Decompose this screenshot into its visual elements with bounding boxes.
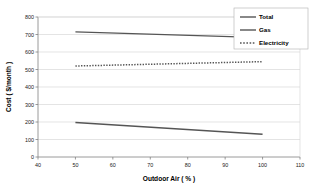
y-tick-label-700: 700	[25, 32, 34, 38]
x-tick-label-80: 80	[185, 162, 191, 168]
y-axis-title: Cost ( $/month )	[5, 62, 13, 112]
x-tick-label-70: 70	[147, 162, 153, 168]
chart-container: 0100200300400500600700800 40506070809010…	[0, 0, 316, 190]
x-axis-title: Outdoor Air ( % )	[143, 175, 196, 183]
y-tick-label-600: 600	[25, 49, 34, 55]
legend: TotalGasElectricity	[234, 8, 308, 49]
y-tick-label-400: 400	[25, 84, 34, 90]
y-tick-label-100: 100	[25, 137, 34, 143]
y-tick-label-500: 500	[25, 67, 34, 73]
legend-label-electricity: Electricity	[259, 39, 289, 46]
line-chart: 0100200300400500600700800 40506070809010…	[0, 0, 316, 190]
x-tick-label-90: 90	[222, 162, 228, 168]
legend-label-total: Total	[259, 13, 274, 20]
y-tick-label-0: 0	[31, 154, 34, 160]
y-tick-label-300: 300	[25, 102, 34, 108]
y-tick-label-200: 200	[25, 119, 34, 125]
x-tick-label-60: 60	[110, 162, 116, 168]
x-tick-label-50: 50	[72, 162, 78, 168]
x-tick-label-100: 100	[258, 162, 267, 168]
x-tick-label-40: 40	[35, 162, 41, 168]
y-tick-label-800: 800	[25, 14, 34, 20]
legend-label-gas: Gas	[259, 26, 271, 33]
x-tick-label-110: 110	[296, 162, 305, 168]
